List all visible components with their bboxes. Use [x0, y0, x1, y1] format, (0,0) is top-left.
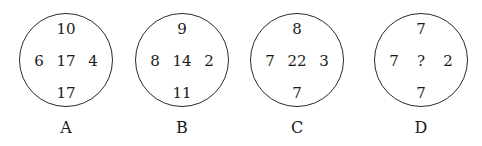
circle-a-bottom-number: 17 — [56, 85, 75, 101]
circle-a-label: A — [60, 118, 72, 137]
circle-group-a: 10 6 17 4 17 A — [7, 0, 127, 146]
circle-c-right-number: 3 — [319, 53, 329, 69]
circle-b-label: B — [176, 118, 188, 137]
circle-b-top-number: 9 — [177, 21, 187, 37]
circle-d-label: D — [415, 118, 428, 137]
circle-b-right-number: 2 — [204, 53, 214, 69]
circle-group-c: 8 7 22 3 7 C — [238, 0, 358, 146]
circle-d-center-question-mark: ? — [417, 53, 425, 69]
circle-b-bottom-number: 11 — [172, 85, 191, 101]
circle-a-top-number: 10 — [56, 21, 75, 37]
circle-c-bottom-number: 7 — [292, 85, 302, 101]
circle-a-left-number: 6 — [34, 53, 44, 69]
circle-d-top-number: 7 — [416, 21, 426, 37]
circle-group-b: 9 8 14 2 11 B — [123, 0, 243, 146]
circle-c-top-number: 8 — [292, 21, 302, 37]
circle-d-bottom-number: 7 — [416, 85, 426, 101]
circle-a-right-number: 4 — [88, 53, 98, 69]
circle-d-right-number: 2 — [443, 53, 453, 69]
circle-a-center-number: 17 — [56, 53, 75, 69]
circle-b-left-number: 8 — [150, 53, 160, 69]
circle-d-left-number: 7 — [389, 53, 399, 69]
circle-c-center-number: 22 — [287, 53, 306, 69]
circle-group-d: 7 7 ? 2 7 D — [362, 0, 482, 146]
circle-b-center-number: 14 — [172, 53, 191, 69]
number-circle-puzzle: 10 6 17 4 17 A 9 8 14 2 11 B 8 7 22 3 7 … — [0, 0, 482, 146]
circle-c-label: C — [291, 118, 303, 137]
circle-c-left-number: 7 — [265, 53, 275, 69]
